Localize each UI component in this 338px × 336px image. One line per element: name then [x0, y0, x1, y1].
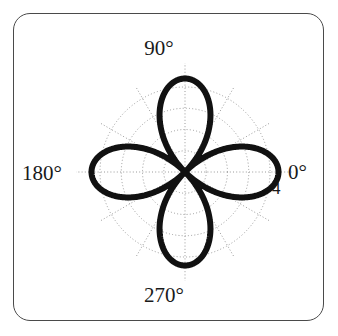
angle-label-180: 180°: [22, 163, 62, 184]
rose-curve: [92, 79, 279, 266]
angle-label-90: 90°: [144, 38, 173, 59]
polar-plot-figure: 90° 270° 180° 0° 4: [0, 0, 338, 336]
angle-label-270: 270°: [144, 285, 184, 306]
radial-tick-label-4: 4: [272, 180, 281, 197]
angle-label-0: 0°: [288, 162, 307, 183]
